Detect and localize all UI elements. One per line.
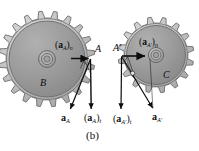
vector-label-normal-a: (aA)n xyxy=(55,41,73,51)
vector-label-tangential-a: (aA)t xyxy=(84,113,101,123)
vector-label-normal-a-prime: (aA')n xyxy=(139,38,158,48)
vector-label-tangential-a-prime: (aA')t xyxy=(113,114,132,124)
accel-subscript-point: A' xyxy=(121,118,126,125)
accel-subscript-point: A' xyxy=(147,42,152,48)
point-label-a: A xyxy=(95,44,101,54)
point-label-a-prime: A' xyxy=(113,43,121,53)
vector-tangential-a-left xyxy=(91,59,92,109)
gear-c-group xyxy=(118,17,193,92)
accel-subscript-component: n xyxy=(70,45,73,51)
gear-label-c: C xyxy=(163,70,170,80)
accel-subscript-component: t xyxy=(99,117,101,124)
vector-tangential-a-right xyxy=(121,57,122,110)
vector-label-total-a: aA xyxy=(61,113,70,123)
figure-caption: (b) xyxy=(86,130,99,141)
gear-acceleration-figure: A A' B C (aA)n (aA')n aA (aA)t (aA')t aA… xyxy=(0,0,199,151)
gear-label-b: B xyxy=(40,78,46,88)
accel-subscript-point: A xyxy=(63,45,67,51)
accel-subscript-point: A' xyxy=(157,116,162,123)
accel-subscript-point: A xyxy=(66,117,70,124)
gear-b-hub-bore xyxy=(44,56,50,62)
vector-label-total-a-prime: aA' xyxy=(152,112,162,122)
accel-subscript-point: A xyxy=(92,117,96,124)
gear-c-hub-bore xyxy=(153,52,158,57)
accel-subscript-component: n xyxy=(155,42,158,48)
joint-marker-right xyxy=(131,71,135,75)
accel-subscript-component: t xyxy=(130,118,132,125)
